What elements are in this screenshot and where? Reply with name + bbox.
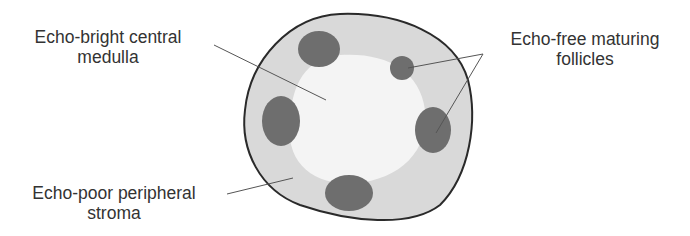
follicle: [262, 96, 300, 146]
label-medulla-line2: medulla: [8, 47, 208, 67]
follicle: [415, 107, 451, 153]
label-medulla-line1: Echo-bright central: [8, 27, 208, 47]
label-follicles-line2: follicles: [485, 49, 685, 69]
label-stroma: Echo-poor peripheral stroma: [4, 183, 224, 223]
label-stroma-line2: stroma: [4, 203, 224, 223]
label-stroma-line1: Echo-poor peripheral: [4, 183, 224, 203]
label-medulla: Echo-bright central medulla: [8, 27, 208, 67]
label-follicles-line1: Echo-free maturing: [485, 29, 685, 49]
follicle: [298, 31, 340, 67]
label-follicles: Echo-free maturing follicles: [485, 29, 685, 69]
follicle: [325, 175, 373, 211]
